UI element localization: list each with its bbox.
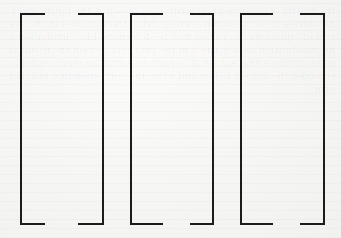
- left-bracket-icon: [240, 13, 273, 225]
- right-bracket-icon: [190, 13, 214, 225]
- left-bracket-icon: [20, 13, 45, 225]
- bleed-through-text: the matrix of coefficients is written as…: [6, 4, 335, 234]
- paper-background: [0, 0, 341, 238]
- right-bracket-icon: [78, 13, 104, 225]
- left-bracket-icon: [130, 13, 163, 225]
- right-bracket-icon: [300, 13, 325, 225]
